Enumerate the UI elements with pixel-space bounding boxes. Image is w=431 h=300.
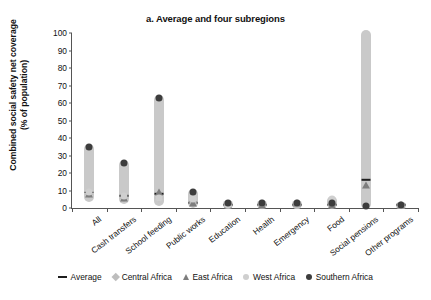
data-point-circle-dark (293, 199, 300, 206)
y-axis-tick-mark (69, 50, 72, 51)
x-axis-tick-mark (383, 208, 384, 212)
y-axis-tick-mark (69, 173, 72, 174)
legend-label: East Africa (192, 272, 232, 282)
x-axis-label: Health (251, 214, 276, 237)
y-axis-tick-mark (69, 33, 72, 34)
data-point-circle-dark (328, 199, 335, 206)
data-point-circle-dark (120, 159, 127, 166)
data-point-circle-dark (259, 199, 266, 206)
legend-item[interactable]: Central Africa (113, 272, 172, 282)
legend-marker-dash-icon (58, 276, 67, 278)
legend-label: Average (71, 272, 102, 282)
y-axis-label-line2: (% of population) (19, 5, 30, 185)
legend-label: West Africa (253, 272, 295, 282)
legend-marker-circle-dark-icon (306, 274, 312, 280)
x-axis-tick-mark (314, 208, 315, 212)
data-point-circle-dark (155, 94, 162, 101)
legend-item[interactable]: Southern Africa (306, 272, 373, 282)
chart-legend: AverageCentral AfricaEast AfricaWest Afr… (0, 272, 431, 282)
y-axis-tick-mark (69, 103, 72, 104)
data-point-circle-dark (86, 143, 93, 150)
legend-item[interactable]: Average (58, 272, 102, 282)
data-point-circle-dark (190, 189, 197, 196)
data-point-circle-dark (224, 199, 231, 206)
x-axis-tick-mark (107, 208, 108, 212)
y-axis-tick-mark (69, 155, 72, 156)
plot-area: 0102030405060708090100 AllCash transfers… (72, 33, 418, 208)
data-point-circle-light (155, 194, 162, 201)
y-axis-tick-mark (69, 120, 72, 121)
data-point-triangle (362, 182, 370, 189)
chart-title: a. Average and four subregions (0, 13, 431, 24)
data-point-circle-light (190, 196, 197, 203)
y-axis-tick-mark (69, 85, 72, 86)
y-axis-label: Combined social safety net coverage (% o… (8, 5, 30, 185)
legend-item[interactable]: West Africa (243, 272, 295, 282)
legend-item[interactable]: East Africa (183, 272, 233, 282)
y-axis-label-line1: Combined social safety net coverage (8, 19, 18, 170)
x-axis-tick-mark (245, 208, 246, 212)
x-axis-label: Education (206, 214, 242, 245)
y-axis-tick-mark (69, 138, 72, 139)
data-point-circle-light (86, 189, 93, 196)
legend-label: Central Africa (122, 272, 172, 282)
chart-figure: a. Average and four subregions Combined … (0, 0, 431, 300)
data-point-circle-dark (397, 201, 404, 208)
x-axis-tick-mark (176, 208, 177, 212)
y-axis-tick-mark (69, 190, 72, 191)
x-axis-tick-mark (418, 208, 419, 212)
legend-marker-diamond-icon (111, 273, 119, 281)
legend-label: Southern Africa (316, 272, 373, 282)
x-axis-label: All (90, 214, 103, 228)
legend-marker-triangle-icon (183, 274, 189, 280)
y-axis-tick-mark (69, 68, 72, 69)
x-axis-label: Emergency (272, 214, 312, 248)
x-axis-tick-mark (349, 208, 350, 212)
x-axis-tick-mark (72, 208, 73, 212)
x-axis-tick-mark (141, 208, 142, 212)
data-point-circle-light (120, 192, 127, 199)
x-axis-tick-mark (280, 208, 281, 212)
legend-marker-circle-light-icon (243, 274, 249, 280)
data-point-dash (362, 179, 371, 181)
x-axis-tick-mark (210, 208, 211, 212)
x-axis-label: Food (324, 214, 345, 234)
data-point-circle-dark (363, 203, 370, 210)
